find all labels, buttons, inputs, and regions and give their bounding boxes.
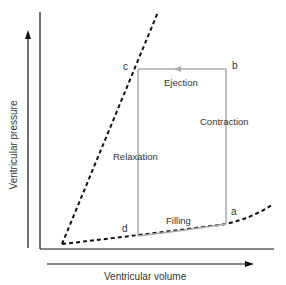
ejection-label: Ejection [164,78,198,88]
relaxation-label: Relaxation [113,152,158,162]
point-d-label: d [122,224,128,234]
contraction-label: Contraction [200,117,249,127]
filling-label: Filling [166,216,191,226]
x-axis-label: Ventricular volume [104,272,186,282]
ejection-direction-arrow-icon [174,66,181,72]
pv-loop-diagram [0,0,286,285]
point-b-label: b [232,61,238,71]
point-c-label: c [123,62,128,72]
point-a-label: a [231,207,237,217]
y-axis-arrowhead-icon [25,30,31,39]
end-systolic-pressure-volume-line [62,12,158,244]
x-axis-arrowhead-icon [245,261,254,267]
y-axis-label: Ventricular pressure [9,95,19,195]
